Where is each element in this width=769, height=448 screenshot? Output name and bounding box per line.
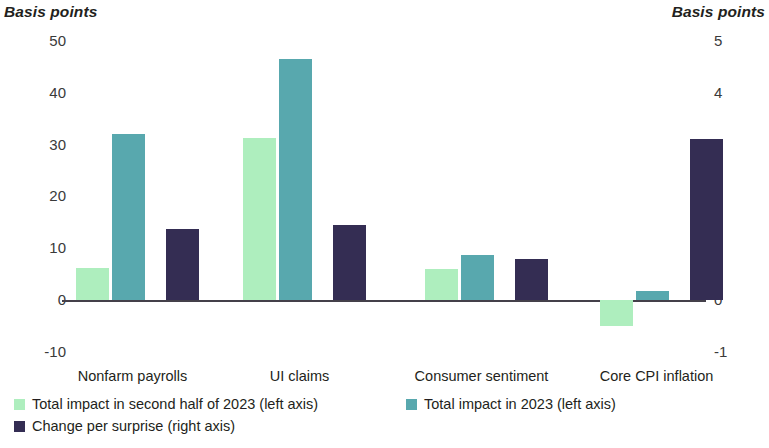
bar: [333, 225, 366, 300]
right-axis-tick: 4: [714, 85, 722, 100]
legend-row-1: Total impact in second half of 2023 (lef…: [14, 396, 754, 418]
bar: [600, 300, 633, 326]
legend-swatch-icon: [406, 399, 417, 410]
category-label: UI claims: [270, 368, 330, 384]
legend-item-total-impact-h2-2023[interactable]: Total impact in second half of 2023 (lef…: [14, 396, 318, 412]
legend-item-total-impact-2023[interactable]: Total impact in 2023 (left axis): [406, 396, 616, 412]
left-axis-tick: 40: [49, 85, 66, 100]
bar: [515, 259, 548, 300]
left-axis-tick: 30: [49, 137, 66, 152]
legend-label: Total impact in second half of 2023 (lef…: [32, 396, 318, 412]
legend-item-change-per-surprise[interactable]: Change per surprise (right axis): [14, 418, 235, 434]
bar: [690, 139, 723, 300]
bar: [279, 59, 312, 300]
category-label: Core CPI inflation: [600, 368, 714, 384]
left-axis-tick: 20: [49, 188, 66, 203]
left-axis-tick: 10: [49, 240, 66, 255]
right-axis-unit-label: Basis points: [672, 3, 765, 21]
left-axis-unit-label: Basis points: [4, 3, 97, 21]
bar: [425, 269, 458, 300]
legend-swatch-icon: [14, 421, 25, 432]
category-label: Consumer sentiment: [415, 368, 549, 384]
chart-legend: Total impact in second half of 2023 (lef…: [14, 396, 754, 440]
legend-row-2: Change per surprise (right axis): [14, 418, 754, 440]
legend-label: Total impact in 2023 (left axis): [424, 396, 616, 412]
bar: [243, 138, 276, 300]
category-label: Nonfarm payrolls: [78, 368, 188, 384]
right-axis-tick: 5: [714, 33, 722, 48]
right-axis-tick: -1: [714, 344, 727, 359]
legend-label: Change per surprise (right axis): [32, 418, 235, 434]
plot-area: [66, 34, 702, 360]
bar-chart: Basis points Basis points 50403020100-10…: [0, 0, 769, 448]
bar: [112, 134, 145, 300]
bar: [166, 229, 199, 300]
bar: [76, 268, 109, 300]
left-axis-tick: 50: [49, 33, 66, 48]
bar: [636, 291, 669, 300]
left-axis-tick: -10: [44, 344, 66, 359]
legend-swatch-icon: [14, 399, 25, 410]
bar: [461, 255, 494, 300]
